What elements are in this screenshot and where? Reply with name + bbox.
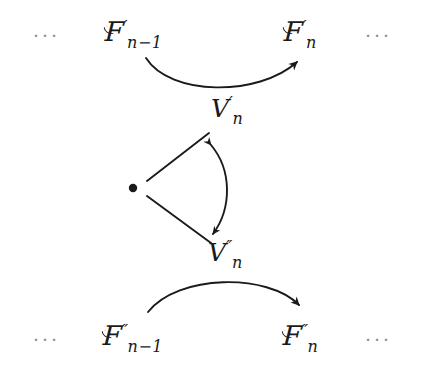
subscript: n	[308, 337, 318, 356]
bottom-row-right-ellipsis: ···	[365, 330, 392, 349]
subscript: n	[306, 33, 316, 52]
top-row-target-node: F′n	[284, 18, 317, 45]
vertical-double-arrow	[211, 145, 227, 234]
bottom-row-left-ellipsis: ···	[33, 330, 60, 349]
subscript: n−1	[127, 33, 162, 52]
apex-to-upper-line	[147, 133, 209, 181]
bottom-row-target-node: F″n	[283, 322, 319, 349]
bottom-arrow-label: V″n	[208, 240, 243, 265]
script-f-icon: F	[282, 322, 302, 349]
script-f-icon: F	[283, 18, 303, 45]
top-arrow-label: V′n	[211, 96, 244, 121]
top-row-right-ellipsis: ···	[365, 26, 392, 45]
math-diagram: ··· F′n−1 F′n ··· V′n ··· F″n−1 F″n ··· …	[0, 0, 423, 369]
diagram-vector-overlay	[0, 0, 423, 369]
script-f-icon: F	[104, 18, 124, 45]
top-row-arrow	[146, 58, 297, 87]
bottom-row-arrow	[148, 282, 299, 312]
subscript: n−1	[128, 337, 163, 356]
apex-to-lower-line	[147, 196, 211, 243]
script-f-icon: F	[102, 322, 122, 349]
top-row-left-ellipsis: ···	[33, 26, 60, 45]
apex-dot	[129, 184, 137, 192]
top-row-source-node: F′n−1	[105, 18, 163, 45]
bottom-row-source-node: F″n−1	[103, 322, 164, 349]
